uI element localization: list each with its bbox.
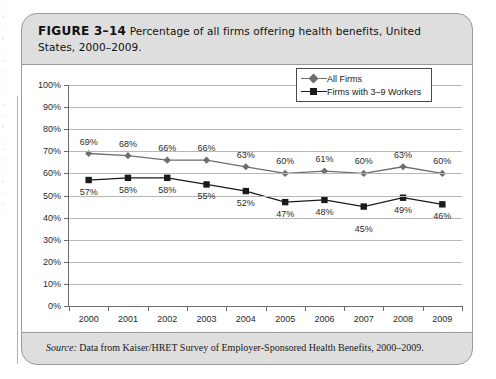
bleed-glyph: c [0, 187, 14, 198]
data-point-label: 60% [433, 156, 451, 166]
data-point-marker [399, 163, 406, 170]
data-point-label: 55% [198, 191, 216, 201]
data-point-label: 69% [80, 137, 98, 147]
bleed-glyph: a [0, 143, 14, 154]
figure-title: FIGURE 3–14 Percentage of all firms offe… [38, 23, 458, 55]
data-point-marker [243, 188, 249, 194]
bleed-glyph: b [0, 33, 14, 44]
x-axis-label: 2006 [314, 314, 334, 324]
bleed-glyph: l [0, 154, 14, 165]
x-axis-label: 2005 [275, 314, 295, 324]
legend-item-small-firms[interactable]: Firms with 3–9 Workers [301, 85, 426, 98]
bleed-glyph: o [0, 99, 14, 110]
source-label: Source: [46, 342, 77, 353]
bleed-glyph: a [0, 198, 14, 209]
x-axis-label: 2009 [432, 314, 452, 324]
data-point-marker [361, 203, 367, 209]
y-axis-label: 50% [43, 191, 61, 201]
x-axis-label: 2007 [354, 314, 374, 324]
data-point-marker [124, 152, 131, 159]
y-axis-tick [64, 284, 69, 285]
data-point-label: 46% [433, 211, 451, 221]
x-axis-label: 2003 [197, 314, 217, 324]
bleed-glyph: f [0, 110, 14, 121]
series-line-all-firms [89, 154, 443, 174]
data-point-marker [242, 163, 249, 170]
x-axis-tick [344, 306, 345, 311]
y-axis-tick [64, 129, 69, 130]
x-axis-tick [462, 306, 463, 311]
x-axis-tick [187, 306, 188, 311]
data-point-label: 48% [315, 207, 333, 217]
y-axis-label: 70% [43, 146, 61, 156]
figure-container: FIGURE 3–14 Percentage of all firms offe… [21, 13, 473, 365]
gridline [69, 218, 462, 219]
y-axis-tick [64, 173, 69, 174]
x-axis-label: 2000 [79, 314, 99, 324]
chart-legend: All Firms Firms with 3–9 Workers [296, 68, 432, 102]
bleed-glyph: t [0, 165, 14, 176]
y-axis-tick [64, 218, 69, 219]
y-axis-label: 60% [43, 168, 61, 178]
gridline [69, 240, 462, 241]
legend-label-small-firms: Firms with 3–9 Workers [327, 86, 421, 98]
y-axis-tick [64, 262, 69, 263]
page-margin-bleed: thebenfitofhealthcar [0, 0, 14, 379]
x-axis-tick [148, 306, 149, 311]
x-axis-label: 2004 [236, 314, 256, 324]
figure-header: FIGURE 3–14 Percentage of all firms offe… [21, 13, 473, 65]
figure-body: 0%10%20%30%40%50%60%70%80%90%100%2000200… [21, 65, 473, 332]
legend-label-all-firms: All Firms [327, 73, 362, 85]
data-point-label: 66% [198, 143, 216, 153]
y-axis-tick [64, 151, 69, 152]
data-point-label: 60% [355, 156, 373, 166]
gridline [69, 129, 462, 130]
x-axis-tick [108, 306, 109, 311]
legend-item-all-firms[interactable]: All Firms [301, 72, 426, 85]
gridline [69, 107, 462, 108]
figure-source-note: Source: Data from Kaiser/HRET Survey of … [21, 332, 473, 365]
data-point-marker [125, 175, 131, 181]
bleed-glyph: t [0, 88, 14, 99]
data-point-label: 68% [119, 139, 137, 149]
y-axis-tick [64, 85, 69, 86]
diamond-marker-icon [301, 73, 327, 85]
bleed-glyph: f [0, 66, 14, 77]
x-axis-tick [266, 306, 267, 311]
y-axis-label: 10% [43, 279, 61, 289]
bleed-glyph: e [0, 44, 14, 55]
series-line-small-firms [89, 178, 443, 207]
y-axis-label: 30% [43, 235, 61, 245]
bleed-glyph: n [0, 55, 14, 66]
bleed-glyph: h [0, 11, 14, 22]
data-point-label: 47% [276, 209, 294, 219]
data-point-marker [203, 181, 209, 187]
x-axis-label: 2002 [157, 314, 177, 324]
y-axis-label: 100% [38, 80, 61, 90]
x-axis-tick [305, 306, 306, 311]
y-axis-tick [64, 240, 69, 241]
bleed-glyph: h [0, 121, 14, 132]
x-axis-tick [226, 306, 227, 311]
source-text: Data from Kaiser/HRET Survey of Employer… [77, 342, 424, 353]
y-axis-label: 40% [43, 213, 61, 223]
data-point-marker [164, 157, 171, 164]
data-point-label: 66% [158, 143, 176, 153]
line-chart: 0%10%20%30%40%50%60%70%80%90%100%2000200… [22, 65, 474, 332]
x-axis-label: 2001 [118, 314, 138, 324]
square-marker-icon [301, 86, 327, 98]
data-point-label: 63% [394, 150, 412, 160]
data-point-label: 61% [315, 154, 333, 164]
data-point-marker [164, 175, 170, 181]
y-axis-label: 20% [43, 257, 61, 267]
data-point-marker [321, 197, 327, 203]
gridline [69, 262, 462, 263]
y-axis-tick [64, 107, 69, 108]
bleed-glyph: r [0, 209, 14, 220]
y-axis-label: 90% [43, 102, 61, 112]
bleed-glyph: t [0, 0, 14, 11]
data-point-label: 60% [276, 156, 294, 166]
data-point-marker [282, 199, 288, 205]
data-point-label: 45% [355, 224, 373, 234]
bleed-glyph: i [0, 77, 14, 88]
